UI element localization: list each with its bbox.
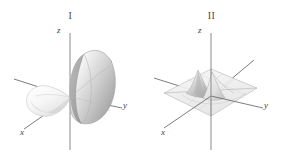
panel-one-z-label: z xyxy=(57,26,61,35)
panel-two-z-label: z xyxy=(198,26,202,35)
panel-one-x-label: x xyxy=(20,128,24,137)
panel-one: I xyxy=(0,0,141,160)
panel-two: II xyxy=(141,0,282,160)
panel-two-x-label: x xyxy=(161,128,165,137)
panel-one-y-label: y xyxy=(123,101,127,110)
panel-two-y-label: y xyxy=(264,101,268,110)
orbital-comparison-figure: I xyxy=(0,0,282,160)
panel-one-small-lobe xyxy=(26,86,70,117)
